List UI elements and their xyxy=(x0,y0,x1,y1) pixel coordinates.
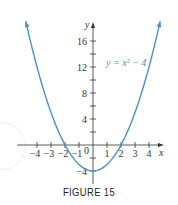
equation-label: y = x² − 4 xyxy=(105,57,146,68)
x-tick-label: −4 xyxy=(30,148,41,159)
y-axis-arrow-icon xyxy=(91,22,95,28)
axes xyxy=(17,22,164,184)
x-tick-label: 1 xyxy=(105,148,110,159)
x-tick-label: 4 xyxy=(147,148,152,159)
y-tick-label: 4 xyxy=(82,114,87,125)
x-tick-label: 0 xyxy=(84,145,89,156)
figure-caption: FIGURE 15 xyxy=(13,186,164,198)
y-axis-label: y xyxy=(84,19,90,30)
x-tick-label: −3 xyxy=(44,148,55,159)
y-tick-label: 8 xyxy=(82,88,87,99)
y-tick-label: 16 xyxy=(77,36,87,47)
x-axis-label: x xyxy=(158,147,164,158)
y-tick-label: 12 xyxy=(77,62,87,73)
x-tick-label: 2 xyxy=(119,148,124,159)
x-tick-label: 3 xyxy=(133,148,138,159)
parabola-plot: −4−3−2−101234161284−4 y = x² − 4 x y xyxy=(0,0,178,205)
x-tick-label: −2 xyxy=(58,148,69,159)
